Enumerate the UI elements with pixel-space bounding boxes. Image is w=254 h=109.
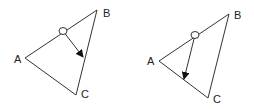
pivot-circle-right	[191, 32, 199, 39]
vertex-label-c-right: C	[213, 93, 221, 105]
vertex-label-a-right: A	[147, 55, 155, 67]
force-arrow-left	[63, 31, 83, 57]
vertex-label-b-right: B	[234, 9, 241, 21]
vertex-label-a-left: A	[14, 53, 22, 65]
diagram-svg: A B C A B C	[0, 0, 254, 109]
pivot-circle-left	[59, 28, 67, 35]
triangle-right	[159, 14, 229, 98]
vertex-label-c-left: C	[81, 88, 89, 100]
vertex-label-b-left: B	[103, 7, 110, 19]
diagram-canvas: A B C A B C	[0, 0, 254, 109]
force-arrow-right	[184, 35, 195, 79]
triangle-left	[25, 10, 97, 95]
triangle-diagram-right: A B C	[147, 9, 241, 105]
triangle-diagram-left: A B C	[14, 7, 110, 100]
